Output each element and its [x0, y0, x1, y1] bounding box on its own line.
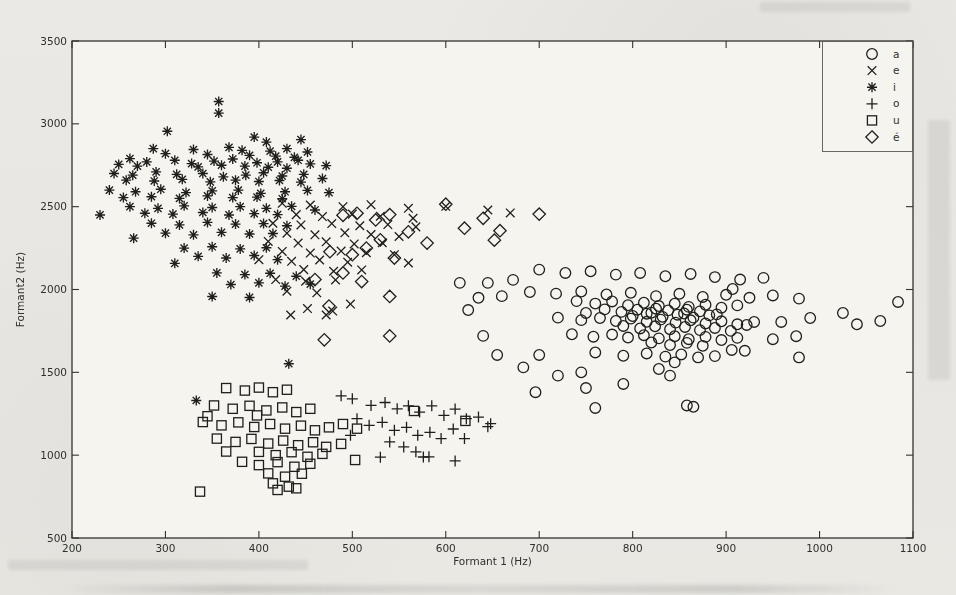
marker-asterisk	[224, 142, 234, 152]
marker-asterisk	[302, 185, 312, 195]
marker-asterisk	[233, 185, 243, 195]
marker-asterisk	[125, 154, 135, 164]
marker-asterisk	[299, 169, 309, 179]
marker-asterisk	[273, 157, 283, 167]
marker-asterisk	[191, 395, 201, 405]
marker-asterisk	[207, 291, 217, 301]
marker-asterisk	[198, 169, 208, 179]
marker-asterisk	[174, 193, 184, 203]
marker-asterisk	[160, 228, 170, 238]
marker-asterisk	[302, 147, 312, 157]
marker-asterisk	[249, 209, 259, 219]
marker-asterisk	[114, 159, 124, 169]
marker-asterisk	[188, 230, 198, 240]
marker-asterisk	[202, 217, 212, 227]
legend: aeioué	[823, 42, 913, 152]
legend-label-i: i	[893, 81, 896, 93]
marker-asterisk	[235, 202, 245, 212]
marker-asterisk	[252, 158, 262, 168]
marker-asterisk	[293, 155, 303, 165]
marker-asterisk	[104, 185, 114, 195]
marker-asterisk	[265, 268, 275, 278]
marker-asterisk	[317, 174, 327, 184]
marker-asterisk	[160, 149, 170, 159]
legend-label-a: a	[893, 48, 899, 60]
marker-asterisk	[142, 157, 152, 167]
marker-asterisk	[280, 281, 290, 291]
marker-asterisk	[252, 192, 262, 202]
marker-asterisk	[231, 219, 241, 229]
x-tick-label: 400	[249, 542, 269, 554]
marker-asterisk	[153, 203, 163, 213]
marker-asterisk	[125, 202, 135, 212]
marker-asterisk	[151, 167, 161, 177]
marker-asterisk	[268, 229, 278, 239]
scanned-page: 2003004005006007008009001000110050010001…	[0, 0, 956, 595]
marker-asterisk	[179, 243, 189, 253]
marker-asterisk	[296, 177, 306, 187]
x-tick-label: 1000	[806, 542, 833, 554]
y-tick-label: 2500	[40, 200, 67, 212]
marker-asterisk	[121, 175, 131, 185]
marker-asterisk	[261, 243, 271, 253]
marker-asterisk	[228, 193, 238, 203]
marker-asterisk	[231, 175, 241, 185]
y-tick-label: 1000	[40, 449, 67, 461]
marker-asterisk	[240, 270, 250, 280]
marker-asterisk	[282, 144, 292, 154]
x-tick-label: 600	[436, 542, 456, 554]
marker-asterisk	[259, 168, 269, 178]
marker-asterisk	[140, 208, 150, 218]
marker-asterisk	[193, 251, 203, 261]
marker-asterisk	[259, 219, 269, 229]
marker-asterisk	[214, 96, 224, 106]
marker-asterisk	[324, 188, 334, 198]
legend-label-é: é	[893, 131, 899, 143]
marker-asterisk	[261, 203, 271, 213]
x-tick-label: 300	[155, 542, 175, 554]
marker-asterisk	[228, 154, 238, 164]
marker-asterisk	[254, 176, 264, 186]
marker-asterisk	[212, 268, 222, 278]
marker-asterisk	[207, 242, 217, 252]
marker-asterisk	[245, 150, 255, 160]
marker-asterisk	[162, 126, 172, 136]
marker-asterisk	[156, 184, 166, 194]
marker-asterisk	[132, 161, 142, 171]
marker-asterisk	[146, 218, 156, 228]
legend-label-o: o	[893, 97, 899, 109]
marker-asterisk	[170, 155, 180, 165]
marker-asterisk	[193, 162, 203, 172]
marker-asterisk	[217, 160, 227, 170]
x-axis-label: Formant 1 (Hz)	[453, 555, 532, 567]
marker-asterisk	[168, 209, 178, 219]
marker-asterisk	[282, 163, 292, 173]
marker-asterisk	[274, 175, 284, 185]
marker-asterisk	[205, 177, 215, 187]
marker-asterisk	[867, 82, 877, 92]
marker-asterisk	[241, 170, 251, 180]
marker-asterisk	[221, 253, 231, 263]
marker-asterisk	[188, 145, 198, 155]
marker-asterisk	[131, 187, 141, 197]
marker-asterisk	[128, 170, 138, 180]
marker-asterisk	[235, 244, 245, 254]
marker-asterisk	[273, 255, 283, 265]
marker-asterisk	[170, 258, 180, 268]
plot-area	[72, 41, 913, 538]
marker-asterisk	[277, 194, 287, 204]
y-tick-label: 1500	[40, 366, 67, 378]
marker-asterisk	[237, 145, 247, 155]
marker-asterisk	[321, 161, 331, 171]
marker-asterisk	[149, 176, 159, 186]
marker-asterisk	[179, 201, 189, 211]
legend-label-u: u	[893, 114, 900, 126]
x-tick-label: 1100	[900, 542, 927, 554]
marker-asterisk	[214, 108, 224, 118]
marker-asterisk	[217, 227, 227, 237]
marker-asterisk	[207, 202, 217, 212]
marker-asterisk	[305, 159, 315, 169]
marker-asterisk	[109, 169, 119, 179]
marker-asterisk	[146, 192, 156, 202]
marker-asterisk	[224, 210, 234, 220]
